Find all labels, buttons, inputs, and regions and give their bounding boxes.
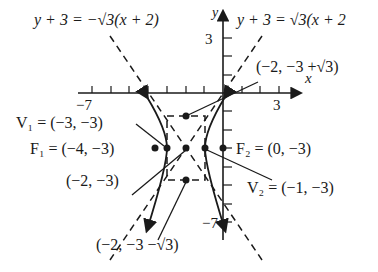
vertex-2-label: V₂ = (−1, −3) bbox=[247, 179, 334, 197]
left-branch bbox=[147, 97, 167, 230]
y-tick-max-label: 3 bbox=[205, 31, 213, 47]
hyperbola-figure: y + 3 = −√3(x + 2) y + 3 = √3(x + 2 y x … bbox=[0, 0, 378, 272]
x-axis bbox=[78, 86, 300, 93]
center-label: (−2, −3) bbox=[66, 172, 119, 190]
focus-1-point bbox=[152, 145, 159, 152]
vertex-1-label: V₁ = (−3, −3) bbox=[16, 114, 103, 132]
focus-2-point bbox=[220, 145, 227, 152]
top-point-label: (−2, −3 +√3) bbox=[256, 58, 339, 76]
x-tick-min-label: −7 bbox=[76, 97, 92, 113]
vertex-1-point bbox=[164, 145, 171, 152]
asymptote-positive-label: y + 3 = √3(x + 2 bbox=[235, 11, 346, 29]
y-axis-ticks bbox=[223, 38, 232, 222]
focus-2-label: F₂ = (0, −3) bbox=[236, 140, 311, 158]
y-axis-label: y bbox=[210, 5, 219, 20]
asymptote-negative-label: y + 3 = −√3(x + 2) bbox=[32, 11, 159, 29]
x-axis-ticks bbox=[92, 86, 279, 93]
right-branch bbox=[205, 97, 225, 230]
bottom-point-label: (−2, −3 −√3) bbox=[96, 236, 179, 254]
x-tick-max-label: 3 bbox=[273, 97, 281, 113]
y-tick-min-label: −7 bbox=[202, 215, 218, 231]
focus-1-label: F₁ = (−4, −3) bbox=[30, 140, 114, 158]
